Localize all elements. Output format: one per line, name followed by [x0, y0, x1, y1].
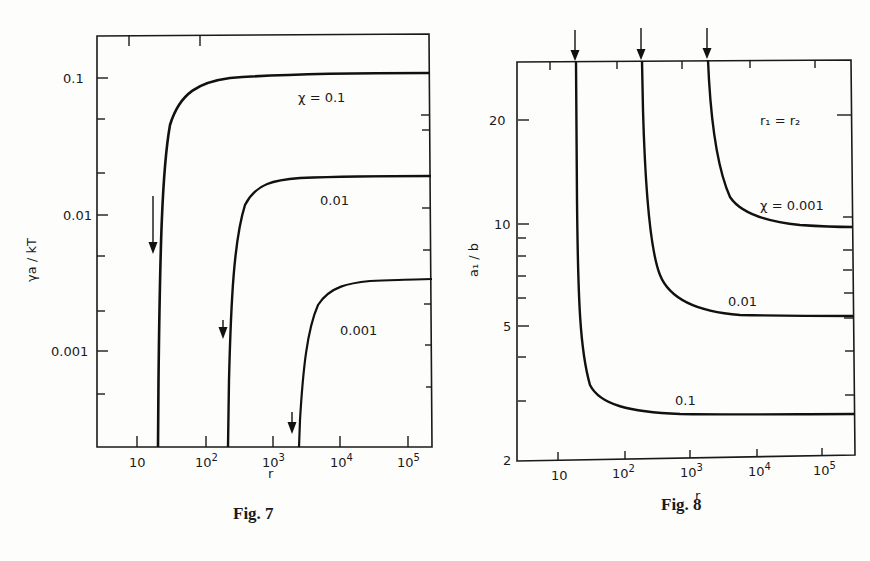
fig8-xtick-1e2: 102	[612, 463, 635, 481]
fig7-xtick-1e3: 103	[262, 452, 285, 470]
fig7-ytick-0.01: 0.01	[63, 208, 92, 223]
fig8-caption: Fig. 8	[661, 495, 702, 515]
fig8-curve-chi-0.1	[576, 62, 855, 414]
fig7-top-ticks	[129, 35, 200, 46]
fig8-curve-label-chi-0.01: 0.01	[728, 294, 757, 309]
fig8-ytick-10: 10	[494, 217, 511, 232]
fig8-ylabel: a₁ / b	[466, 243, 481, 277]
fig8-xtick-10: 10	[551, 468, 568, 483]
fig7-ytick-0.1: 0.1	[63, 71, 84, 86]
fig8-xtick-1e5: 105	[813, 460, 836, 478]
fig7-curve-label-chi-0.001: 0.001	[340, 323, 377, 338]
fig7-caption: Fig. 7	[233, 504, 274, 524]
fig7-onset-arrow-chi-0.001	[288, 412, 297, 434]
fig8-onset-arrow-chi-0.01	[637, 28, 646, 60]
fig7-bottom-ticks	[137, 436, 408, 447]
fig8-onset-arrow-chi-0.1	[571, 30, 580, 61]
fig7-ytick-0.001: 0.001	[51, 344, 88, 359]
fig7-curve-chi-0.001	[299, 279, 432, 447]
fig8-annotation-r1-eq-r2: r₁ = r₂	[760, 113, 800, 128]
fig7-xtick-1e5: 105	[397, 452, 420, 470]
fig7-onset-arrow-chi-0.01	[219, 320, 228, 339]
fig7-xtick-10: 10	[129, 455, 146, 470]
fig8-left-ticks	[518, 120, 529, 401]
fig8-curve-label-chi-0.1: 0.1	[675, 393, 696, 408]
fig7-onset-arrow-chi-0.1	[149, 196, 158, 254]
fig8-xtick-1e3: 103	[680, 462, 703, 480]
fig8-ytick-20: 20	[489, 113, 506, 128]
fig8-curve-label-chi-0.001: χ = 0.001	[760, 198, 824, 213]
fig8-onset-arrow-chi-0.001	[703, 28, 712, 59]
fig8-ytick-2: 2	[503, 453, 511, 468]
figures-canvas: 0.1 0.01 0.001 10 102 103 104 105 r γa /…	[0, 0, 870, 561]
fig7-curve-chi-0.01	[228, 176, 431, 447]
fig7-xtick-1e2: 102	[195, 452, 218, 470]
fig7-curve-chi-0.1	[158, 73, 430, 447]
fig8-chart: 20 10 5 2 10 102 103 104 105 r a₁ / b r₁…	[466, 28, 855, 503]
fig7-xtick-1e4: 104	[330, 452, 353, 470]
fig7-frame	[97, 34, 432, 447]
fig8-xtick-1e4: 104	[748, 461, 771, 479]
fig8-ytick-5: 5	[503, 319, 511, 334]
fig7-curve-label-chi-0.1: χ = 0.1	[298, 90, 345, 105]
fig8-curve-chi-0.01	[642, 61, 853, 316]
fig7-chart: 0.1 0.01 0.001 10 102 103 104 105 r γa /…	[24, 34, 432, 481]
fig7-left-ticks	[97, 78, 108, 394]
fig7-xlabel: r	[268, 466, 274, 481]
fig7-curve-label-chi-0.01: 0.01	[320, 193, 349, 208]
fig7-ylabel: γa / kT	[24, 238, 39, 282]
